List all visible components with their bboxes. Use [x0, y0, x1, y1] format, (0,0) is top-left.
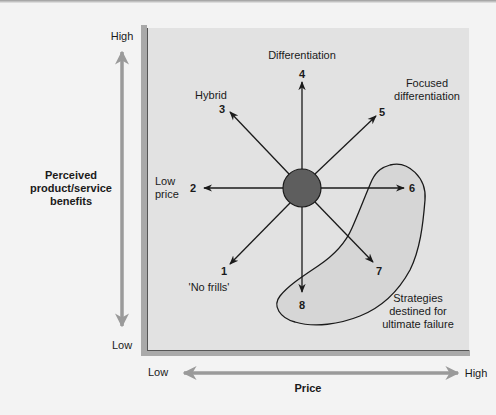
y-axis: High Low Perceived product/service benef…	[30, 30, 133, 351]
strategy-5-number: 5	[379, 106, 385, 118]
y-axis-low: Low	[112, 339, 132, 351]
strategy-5-label-line2: differentiation	[394, 90, 460, 102]
strategy-3-number: 3	[219, 103, 225, 115]
hub-circle	[283, 169, 321, 207]
y-axis-high: High	[111, 30, 134, 42]
strategy-8-number: 8	[299, 299, 305, 311]
failure-zone-label-line2: destined for	[389, 305, 447, 317]
strategy-4-number: 4	[299, 68, 306, 80]
x-axis-label: Price	[295, 382, 322, 394]
y-axis-label-line3: benefits	[50, 195, 92, 207]
strategy-2-label-line1: Low	[155, 175, 175, 187]
strategy-7-number: 7	[376, 265, 382, 277]
x-axis-low: Low	[148, 366, 168, 378]
strategy-5-label-line1: Focused	[406, 77, 448, 89]
strategy-1-number: 1	[221, 265, 227, 277]
failure-zone-label-line1: Strategies	[393, 292, 443, 304]
y-axis-label-line2: product/service	[30, 182, 112, 194]
strategy-6-number: 6	[409, 182, 415, 194]
y-axis-label-line1: Perceived	[45, 169, 97, 181]
strategy-2-label-line2: price	[155, 188, 179, 200]
strategy-4-label: Differentiation	[268, 49, 336, 61]
x-axis: Low High Price	[148, 366, 487, 394]
strategy-3-label: Hybrid	[195, 89, 227, 101]
failure-zone-label-line3: ultimate failure	[382, 318, 454, 330]
strategy-clock-diagram: 1 2 3 4 5 6 7 8 'No frills' Low price Hy…	[0, 0, 496, 415]
strategy-2-number: 2	[190, 182, 196, 194]
x-axis-high: High	[465, 367, 488, 379]
strategy-1-label: 'No frills'	[189, 281, 230, 293]
